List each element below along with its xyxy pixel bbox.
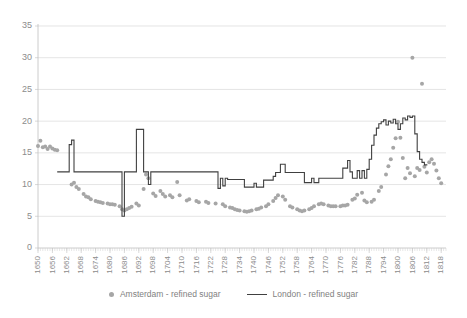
data-point xyxy=(77,187,81,191)
data-point xyxy=(130,205,134,209)
data-point xyxy=(290,205,294,209)
legend-label-amsterdam: Amsterdam - refined sugar xyxy=(120,289,221,299)
chart-legend: Amsterdam - refined sugar London - refin… xyxy=(0,289,467,299)
data-point xyxy=(38,139,42,143)
data-point xyxy=(346,203,350,207)
x-axis-label: 1770 xyxy=(321,255,330,273)
x-axis-label: 1794 xyxy=(379,255,388,273)
data-point xyxy=(89,197,93,201)
data-point xyxy=(142,187,146,191)
data-point xyxy=(178,193,182,197)
data-point xyxy=(434,169,438,173)
data-point xyxy=(425,171,429,175)
data-point xyxy=(276,193,280,197)
data-point xyxy=(406,166,410,170)
series-amsterdam xyxy=(36,56,443,214)
x-axis-label: 1752 xyxy=(278,255,287,273)
x-axis-label: 1650 xyxy=(33,255,42,273)
data-point xyxy=(427,160,431,164)
data-point xyxy=(418,168,422,172)
data-point xyxy=(432,162,436,166)
legend-item-london[interactable]: London - refined sugar xyxy=(247,289,359,299)
x-axis-label: 1788 xyxy=(364,255,373,273)
data-point xyxy=(113,203,117,207)
data-point xyxy=(322,202,326,206)
data-point xyxy=(154,194,158,198)
data-point xyxy=(360,191,364,195)
x-axis-label: 1680 xyxy=(105,255,114,273)
x-axis-label: 1716 xyxy=(192,255,201,273)
data-point xyxy=(420,82,424,86)
data-point xyxy=(312,204,316,208)
data-point xyxy=(214,202,218,206)
x-axis-label: 1812 xyxy=(422,255,431,273)
data-point xyxy=(353,197,357,201)
x-axis-label: 1668 xyxy=(76,255,85,273)
data-point xyxy=(137,204,141,208)
data-point xyxy=(72,181,76,185)
x-axis-label: 1728 xyxy=(220,255,229,273)
x-axis-label: 1740 xyxy=(249,255,258,273)
data-point xyxy=(394,136,398,140)
data-point xyxy=(36,144,40,148)
data-point xyxy=(197,200,201,204)
legend-item-amsterdam[interactable]: Amsterdam - refined sugar xyxy=(109,289,221,299)
data-point xyxy=(386,164,390,168)
x-axis-label: 1704 xyxy=(163,255,172,273)
y-axis-label: 15 xyxy=(22,147,32,157)
x-axis-label: 1806 xyxy=(408,255,417,273)
data-point xyxy=(170,195,174,199)
data-point xyxy=(101,201,105,205)
y-axis-label: 10 xyxy=(22,179,32,189)
x-axis-label: 1800 xyxy=(393,255,402,273)
x-axis-label: 1818 xyxy=(436,255,445,273)
data-point xyxy=(403,176,407,180)
x-axis-label: 1758 xyxy=(292,255,301,273)
data-point xyxy=(389,157,393,161)
data-point xyxy=(163,195,167,199)
x-axis-label: 1710 xyxy=(177,255,186,273)
y-axis-label: 30 xyxy=(22,52,32,62)
x-axis-label: 1674 xyxy=(91,255,100,273)
data-point xyxy=(158,189,162,193)
dot-marker-icon xyxy=(109,292,114,297)
data-point xyxy=(384,172,388,176)
data-point xyxy=(206,201,210,205)
x-axis-label: 1722 xyxy=(206,255,215,273)
x-axis-label: 1656 xyxy=(48,255,57,273)
data-point xyxy=(259,205,263,209)
data-point xyxy=(302,209,306,213)
data-point xyxy=(372,198,376,202)
data-point xyxy=(401,156,405,160)
data-point xyxy=(250,209,254,213)
data-point xyxy=(144,172,148,176)
sugar-price-chart: 0510152025303516501656166216681674168016… xyxy=(0,0,467,318)
x-axis-label: 1782 xyxy=(350,255,359,273)
data-point xyxy=(281,195,285,199)
y-axis-label: 5 xyxy=(27,211,32,221)
data-point xyxy=(391,146,395,150)
y-axis-label: 25 xyxy=(22,84,32,94)
y-axis-label: 0 xyxy=(27,242,32,252)
data-point xyxy=(223,204,227,208)
line-marker-icon xyxy=(247,294,267,295)
data-point xyxy=(266,202,270,206)
data-point xyxy=(334,204,338,208)
data-point xyxy=(430,157,434,161)
x-axis-label: 1698 xyxy=(148,255,157,273)
data-point xyxy=(377,189,381,193)
x-axis-label: 1764 xyxy=(307,255,316,273)
chart-plot-area: 0510152025303516501656166216681674168016… xyxy=(0,0,467,318)
data-point xyxy=(271,199,275,203)
data-point xyxy=(118,204,122,208)
data-point xyxy=(439,181,443,185)
data-point xyxy=(175,180,179,184)
x-axis-label: 1662 xyxy=(62,255,71,273)
data-point xyxy=(238,209,242,213)
data-point xyxy=(283,198,287,202)
data-point xyxy=(437,176,441,180)
data-point xyxy=(187,197,191,201)
y-axis-label: 35 xyxy=(22,20,32,30)
y-axis-label: 20 xyxy=(22,116,32,126)
data-point xyxy=(355,193,359,197)
